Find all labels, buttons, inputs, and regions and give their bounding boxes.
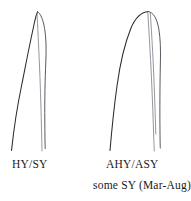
label-ahy-asy: AHY/ASY [106,158,159,171]
feather-left-rachis [37,13,42,151]
feather-left-hy-sy [12,12,47,151]
feather-right-inner-edge [149,12,161,149]
feather-right-rachis [148,12,155,151]
feather-aging-figure: HY/SY AHY/ASY some SY (Mar-Aug) [0,0,191,201]
label-some-sy-note: some SY (Mar-Aug) [93,179,191,192]
feather-right-ahy-asy [110,12,161,152]
feather-left-outer-edge [12,12,38,151]
label-hy-sy: HY/SY [12,158,48,171]
feather-right-outer-edge [110,12,149,151]
